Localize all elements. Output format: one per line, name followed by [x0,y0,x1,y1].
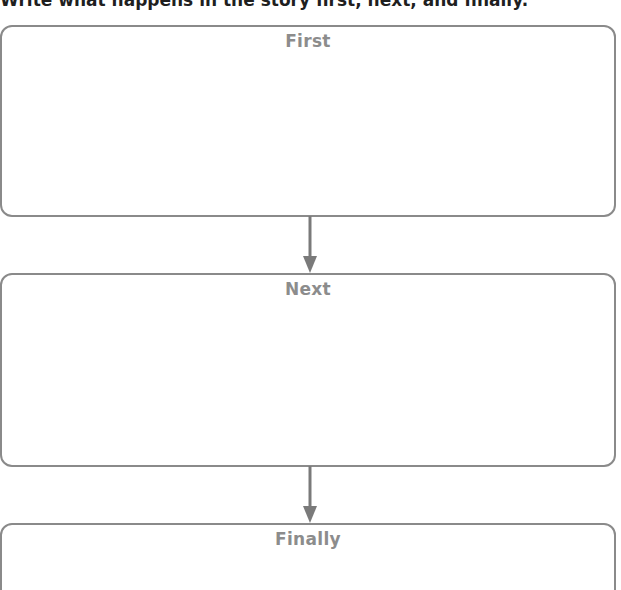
finally-box[interactable]: Finally [0,523,616,590]
next-box[interactable]: Next [0,273,616,467]
first-box[interactable]: First [0,25,616,217]
first-box-title: First [2,31,614,51]
next-answer-field[interactable] [2,299,618,463]
next-box-title: Next [2,279,614,299]
instruction-text: Write what happens in the story first, n… [0,0,528,10]
first-answer-field[interactable] [2,51,618,213]
arrow-down-icon [303,216,317,274]
finally-box-title: Finally [2,529,614,549]
finally-answer-field[interactable] [2,549,618,590]
arrow-down-icon [303,466,317,524]
